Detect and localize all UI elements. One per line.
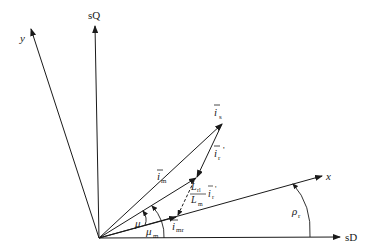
vector-ir-prime: i r ' [197, 124, 225, 177]
scaled-vec-label: i [208, 188, 211, 199]
angle-mu: μ [134, 211, 146, 229]
angle-rho-r: ρ r [291, 184, 310, 237]
scaled-num-L: L [190, 181, 197, 192]
vector-is-sub: s [219, 113, 222, 121]
angle-rho-r-sub: r [298, 212, 301, 220]
angle-rho-r-label: ρ [291, 205, 297, 217]
vector-diagram: sD sQ x y i s i r ' i m L rl L [0, 0, 373, 252]
angle-mu-label: μ [134, 217, 141, 229]
vector-is-label: i [214, 106, 217, 118]
vector-im-sub: m [161, 177, 167, 185]
vector-imr-sub: mr [176, 226, 184, 234]
vector-ir-label: i [214, 147, 217, 159]
scaled-den-L: L [190, 194, 197, 205]
scaled-den-sub: m [198, 201, 203, 207]
vector-ir-sub: r [218, 154, 221, 162]
angle-mu-m-sub: m [153, 232, 159, 240]
scaled-num-sub: rl [197, 187, 201, 193]
scaled-vec-prime: ' [215, 185, 217, 194]
vector-imr: i mr [99, 217, 184, 238]
axis-x-label: x [325, 170, 331, 182]
axis-y: y [19, 29, 99, 238]
vector-imr-label: i [172, 220, 175, 232]
axis-x: x [99, 170, 331, 238]
axis-y-label: y [19, 32, 25, 44]
vector-ir-prime-mark: ' [223, 145, 225, 155]
scaled-vec-sub: r [212, 194, 214, 200]
axis-sD: sD [99, 231, 357, 243]
axis-sQ: sQ [88, 9, 100, 238]
angle-mu-m-label: μ [145, 225, 152, 237]
axis-sQ-label: sQ [88, 9, 100, 21]
vector-im-label: i [157, 170, 160, 182]
axis-sD-label: sD [345, 231, 357, 243]
